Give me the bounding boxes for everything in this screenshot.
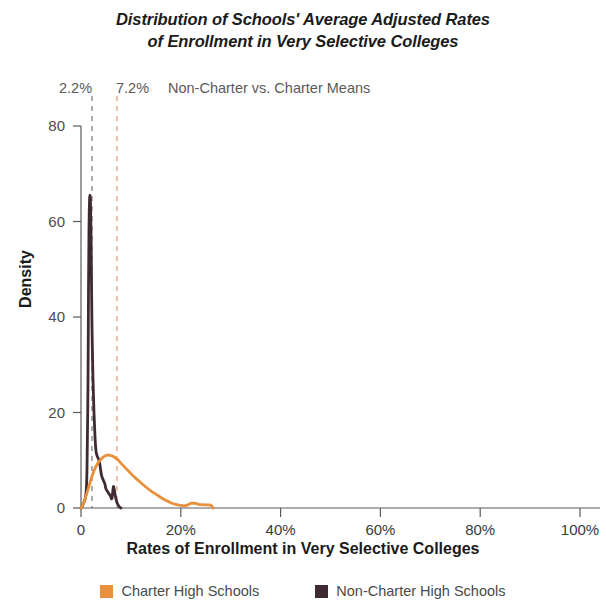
legend-label: Non-Charter High Schools	[336, 583, 505, 599]
x-tick-label: 40%	[266, 522, 296, 537]
legend-item[interactable]: Non-Charter High Schools	[315, 583, 505, 599]
legend-swatch-icon	[100, 585, 113, 598]
x-tick-label: 100%	[561, 522, 599, 537]
x-tick-label: 0	[77, 522, 85, 537]
axis-lines	[73, 126, 600, 517]
y-axis-title: Density	[17, 209, 35, 349]
legend-swatch-icon	[315, 585, 328, 598]
density-curves	[81, 195, 213, 508]
x-axis-title: Rates of Enrollment in Very Selective Co…	[0, 540, 606, 558]
density-plot	[0, 0, 606, 613]
chart-legend: Charter High SchoolsNon-Charter High Sch…	[0, 583, 606, 599]
x-tick-label: 80%	[465, 522, 495, 537]
y-tick-label: 20	[25, 405, 65, 420]
chart-figure: Distribution of Schools' Average Adjuste…	[0, 0, 606, 613]
legend-label: Charter High Schools	[121, 583, 259, 599]
x-tick-label: 20%	[166, 522, 196, 537]
y-tick-label: 80	[25, 118, 65, 133]
x-tick-label: 60%	[365, 522, 395, 537]
plot-area: 020406080 020%40%60%80%100% Density Rate…	[0, 0, 606, 613]
legend-item[interactable]: Charter High Schools	[100, 583, 259, 599]
y-tick-label: 0	[25, 500, 65, 515]
